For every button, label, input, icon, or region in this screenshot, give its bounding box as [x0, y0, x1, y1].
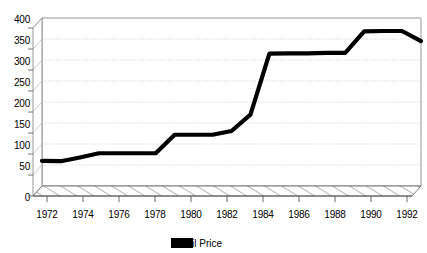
x-axis-tick-label: 1974 — [64, 209, 102, 220]
x-axis-tick-label: 1972 — [28, 209, 66, 220]
x-axis-ticks — [33, 196, 412, 202]
plot-left-wall — [28, 18, 42, 196]
x-axis-tick-label: 1976 — [100, 209, 138, 220]
x-axis-tick-label: 1984 — [244, 209, 282, 220]
chart-container: 400 350 300 250 200 150 100 50 0 — [0, 0, 427, 253]
x-axis-tick-label: 1992 — [388, 209, 426, 220]
legend-label-retail-price: Retail Price — [171, 238, 222, 249]
x-axis-tick-label: 1980 — [172, 209, 210, 220]
x-axis-tick-label: 1982 — [208, 209, 246, 220]
x-axis-tick-label: 1988 — [316, 209, 354, 220]
plot-floor — [33, 186, 421, 196]
x-axis-tick-label: 1978 — [136, 209, 174, 220]
x-axis-tick-label: 1986 — [280, 209, 318, 220]
x-axis-tick-label: 1990 — [352, 209, 390, 220]
